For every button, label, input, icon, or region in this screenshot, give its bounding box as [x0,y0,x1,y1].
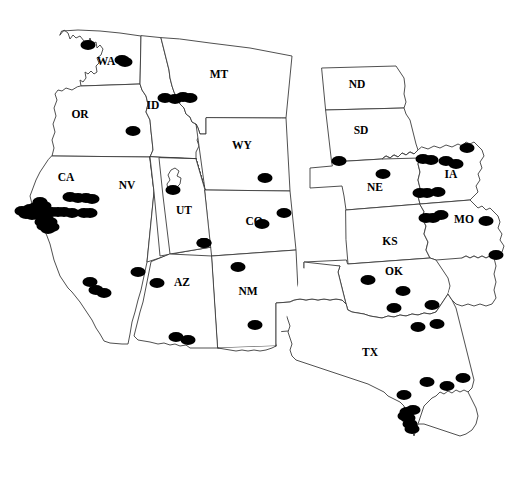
occurrence-dot [126,126,141,136]
occurrence-dot [489,250,504,260]
occurrence-dot [406,405,421,415]
occurrence-dot [420,377,435,387]
occurrence-dot [277,208,292,218]
state-label-az: AZ [174,276,190,288]
state-label-wa: WA [97,55,116,67]
occurrence-dot [231,262,246,272]
occurrence-dot [15,206,30,216]
occurrence-dot [425,300,440,310]
occurrence-dot [81,40,96,50]
occurrence-dot [181,335,196,345]
occurrence-dot [431,187,446,197]
occurrence-dot [37,221,52,231]
occurrence-dot [118,57,133,67]
state-label-ca: CA [58,171,75,183]
map-canvas: WAORIDMTWYCANVUTCOAZNMNDSDNEIAMOKSOKTX [0,0,515,483]
occurrence-dot [376,169,391,179]
occurrence-dot [440,381,455,391]
occurrence-dot [387,303,402,313]
occurrence-dot [405,424,420,434]
occurrence-dot [85,194,100,204]
distribution-map: WAORIDMTWYCANVUTCOAZNMNDSDNEIAMOKSOKTX [0,0,515,483]
occurrence-dot [479,216,494,226]
state-label-co: CO [245,215,262,227]
state-label-tx: TX [362,346,379,358]
occurrence-dot [150,278,165,288]
state-label-or: OR [71,108,89,120]
state-label-ok: OK [385,265,403,277]
occurrence-dot [456,373,471,383]
state-label-nd: ND [349,78,366,90]
occurrence-dot [424,155,439,165]
state-outline-wy [196,118,290,191]
occurrence-dot [460,143,475,153]
state-label-wy: WY [232,139,253,151]
state-label-ks: KS [382,235,397,247]
occurrence-dot [131,267,146,277]
occurrence-dot [197,238,212,248]
state-label-id: ID [147,99,160,111]
state-label-nm: NM [238,285,257,297]
state-label-ne: NE [367,181,383,193]
occurrence-dot [411,322,426,332]
occurrence-dot [332,156,347,166]
state-label-sd: SD [354,124,369,136]
occurrence-dot [183,93,198,103]
occurrence-dot [430,319,445,329]
state-label-ut: UT [176,204,192,216]
state-outline-group [30,30,504,436]
occurrence-dot [248,320,263,330]
occurrence-dot [83,208,98,218]
occurrence-dot [361,275,376,285]
occurrence-dot [166,185,181,195]
state-outline-mo [420,200,504,260]
state-label-ia: IA [445,168,458,180]
state-outline-east-fragment [448,256,496,306]
state-label-mo: MO [454,213,474,225]
occurrence-dot [97,288,112,298]
state-outline-ca [30,156,154,344]
state-outline-or [52,84,153,157]
occurrence-dot [397,390,412,400]
state-label-mt: MT [210,68,229,80]
state-label-nv: NV [119,179,136,191]
occurrence-dot [63,192,78,202]
occurrence-dot [419,213,434,223]
occurrence-dot [396,286,411,296]
occurrence-dot [258,173,273,183]
